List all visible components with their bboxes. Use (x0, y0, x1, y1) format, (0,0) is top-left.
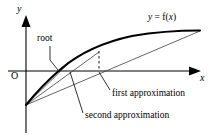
y-axis-arrowhead (22, 15, 31, 27)
x-axis-label: x (200, 73, 204, 83)
function-label-close: ) (173, 12, 176, 22)
origin-label: O (11, 71, 18, 81)
root-label: root (37, 34, 52, 44)
root-leader-line (50, 46, 58, 70)
function-label-equals: = (152, 12, 162, 22)
first-approximation-label: first approximation (112, 89, 185, 99)
second-approximation-leader-line (70, 72, 83, 113)
function-curve-label: y = f(x) (148, 13, 176, 23)
y-axis-label: y (17, 4, 21, 14)
second-approximation-label: second approximation (85, 111, 169, 121)
x-axis (8, 67, 201, 76)
root-approximation-figure: y x O y = f(x) root first approximation … (0, 0, 215, 139)
y-axis (22, 15, 31, 133)
first-approximation-leader-line (99, 72, 110, 90)
